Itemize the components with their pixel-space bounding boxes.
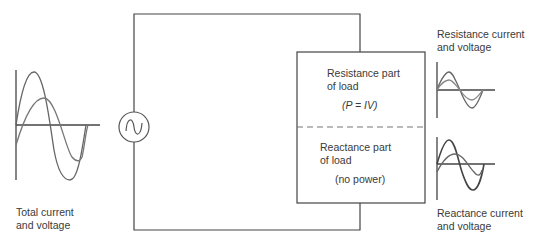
resistance-part-line2: of load — [327, 80, 400, 93]
reactance-graph-label-line2: and voltage — [437, 220, 523, 233]
reactance-graph-label-line1: Reactance current — [437, 207, 523, 220]
resistance-part-line1: Resistance part — [327, 67, 400, 80]
reactance-part-line1: Reactance part — [320, 141, 391, 154]
reactance-part-line2: of load — [320, 154, 391, 167]
power-formula-text: (P = IV) — [342, 99, 378, 112]
total-waveform-graph — [16, 70, 100, 180]
reactance-part-label: Reactance part of load — [320, 141, 391, 167]
total-label: Total current and voltage — [16, 206, 74, 232]
resistance-waveform-graph — [437, 62, 495, 118]
reactance-graph-label: Reactance current and voltage — [437, 207, 523, 233]
reactance-waveform-graph — [437, 137, 495, 200]
total-label-line2: and voltage — [16, 219, 74, 232]
reactance-current-wave — [437, 140, 484, 190]
total-label-line1: Total current — [16, 206, 74, 219]
resistance-graph-label-line2: and voltage — [437, 41, 525, 54]
no-power-note: (no power) — [335, 173, 385, 186]
no-power-text: (no power) — [335, 173, 385, 186]
resistance-graph-label-line1: Resistance current — [437, 28, 525, 41]
resistance-graph-label: Resistance current and voltage — [437, 28, 525, 54]
total-current-wave — [16, 72, 86, 180]
ac-source-icon — [119, 112, 149, 142]
total-voltage-wave — [16, 98, 88, 161]
power-formula: (P = IV) — [342, 99, 378, 112]
resistance-part-label: Resistance part of load — [327, 67, 400, 93]
